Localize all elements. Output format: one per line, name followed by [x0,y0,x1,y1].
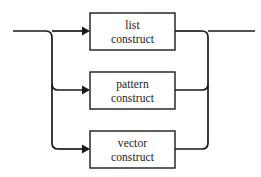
railroad-diagram-canvas: list construct pattern construct vector … [0,0,261,177]
node-pattern-construct[interactable]: pattern construct [90,72,175,109]
node-label-vector-line2: construct [111,151,155,163]
node-label-pattern-line2: construct [111,92,155,104]
input-rail-line [13,31,58,149]
entry-rail-group [13,31,82,149]
railroad-diagram: list construct pattern construct vector … [0,0,261,177]
node-label-list-line2: construct [111,33,155,45]
node-list-construct[interactable]: list construct [90,13,175,50]
node-vector-construct[interactable]: vector construct [90,131,175,168]
arrowhead-group [82,27,90,154]
merge-rail-middle [175,84,208,90]
node-label-vector-line1: vector [118,137,147,149]
node-label-list-line1: list [125,19,140,31]
node-label-pattern-line1: pattern [116,78,149,91]
arrow-icon-pattern [82,86,90,95]
arrow-icon-list [82,27,90,36]
exit-rail-group [175,31,255,149]
arrow-icon-vector [82,145,90,154]
branch-rail-middle [52,84,82,90]
